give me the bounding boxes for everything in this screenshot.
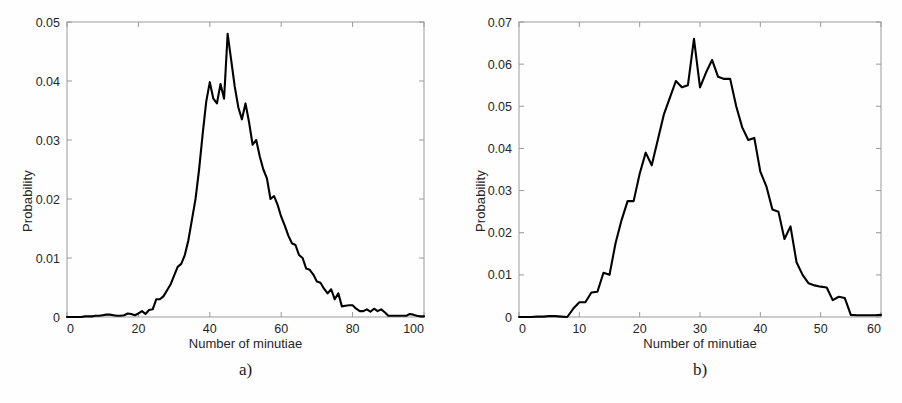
y-tick-label: 0.03 — [488, 184, 512, 198]
figure-container: 02040608010000.010.020.030.040.05 Probab… — [0, 0, 902, 403]
x-tick-label: 50 — [814, 322, 828, 336]
y-axis-label-b: Probability — [473, 170, 488, 232]
y-tick-label: 0 — [505, 311, 512, 325]
data-series-line — [67, 34, 424, 317]
y-tick-label: 0.07 — [488, 16, 512, 30]
y-tick-label: 0.06 — [488, 58, 512, 72]
y-tick-label: 0.05 — [488, 100, 512, 114]
data-series-line — [519, 39, 881, 317]
axes-frame — [67, 22, 424, 317]
chart-panel-b: 010203040506000.010.020.030.040.050.060.… — [451, 0, 902, 403]
y-tick-label: 0.04 — [488, 142, 512, 156]
x-tick-label: 20 — [131, 322, 145, 336]
y-tick-label: 0 — [53, 311, 60, 325]
x-tick-label: 80 — [346, 322, 360, 336]
y-tick-label: 0.04 — [36, 75, 60, 89]
x-tick-label: 30 — [693, 322, 707, 336]
axes-frame — [519, 22, 881, 317]
y-tick-label: 0.01 — [36, 252, 60, 266]
y-tick-label: 0.05 — [36, 16, 60, 30]
x-tick-label: 40 — [753, 322, 767, 336]
y-tick-label: 0.01 — [488, 268, 512, 282]
x-tick-label: 40 — [203, 322, 217, 336]
panel-caption-a: a) — [67, 360, 424, 380]
x-tick-label: 0 — [67, 322, 74, 336]
page-bottom-text — [0, 394, 902, 403]
y-tick-label: 0.02 — [36, 193, 60, 207]
panel-caption-b: b) — [519, 360, 881, 380]
y-tick-label: 0.03 — [36, 134, 60, 148]
chart-panel-a: 02040608010000.010.020.030.040.05 Probab… — [0, 0, 451, 403]
x-tick-label: 10 — [572, 322, 586, 336]
x-axis-label-b: Number of minutiae — [519, 336, 881, 351]
x-tick-label: 100 — [403, 322, 424, 336]
y-axis-label-a: Probability — [20, 170, 35, 232]
y-tick-label: 0.02 — [488, 226, 512, 240]
x-tick-label: 0 — [519, 322, 526, 336]
x-tick-label: 60 — [274, 322, 288, 336]
x-tick-label: 60 — [867, 322, 881, 336]
x-tick-label: 20 — [633, 322, 647, 336]
x-axis-label-a: Number of minutiae — [67, 336, 424, 351]
